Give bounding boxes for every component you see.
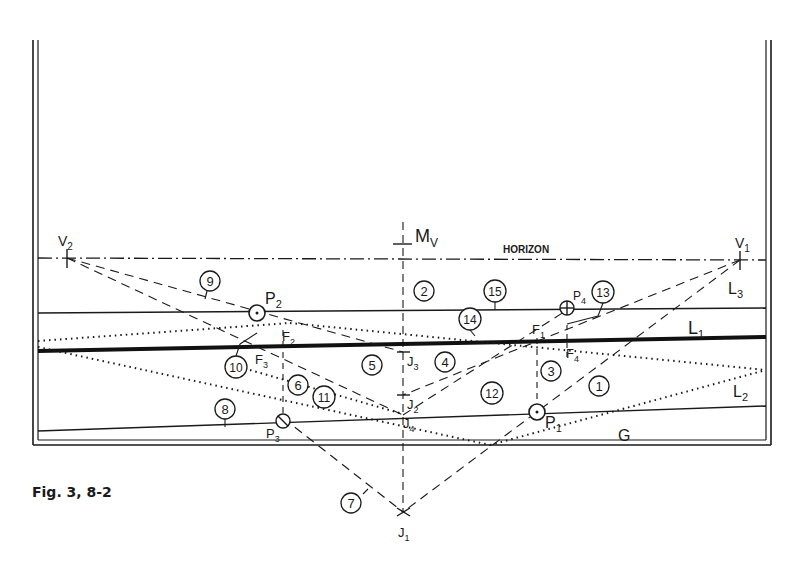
- label-p2: P2: [265, 290, 282, 310]
- label-p3: P3: [266, 426, 280, 444]
- circled-number-3: 3: [547, 364, 554, 379]
- circled-number-5: 5: [368, 358, 375, 373]
- label-j3: J3: [407, 354, 419, 372]
- line-l1: [38, 337, 766, 351]
- label-l2: L2: [733, 383, 748, 403]
- label-v1: V1: [735, 235, 750, 254]
- circled-number-11: 11: [318, 391, 331, 405]
- circled-number-6: 6: [294, 378, 301, 393]
- p3-marker: [276, 414, 290, 428]
- circled-number-2: 2: [420, 284, 427, 299]
- p2-marker: [249, 305, 265, 321]
- label-f3: F3: [255, 352, 268, 370]
- p1-marker: [529, 404, 545, 420]
- label-f4: F4: [566, 346, 579, 364]
- line-l3: [38, 308, 766, 313]
- circled-number-13: 13: [596, 286, 610, 300]
- circled-number-4: 4: [441, 355, 448, 370]
- p4-marker: [560, 301, 574, 315]
- label-v2: V2: [58, 233, 73, 252]
- label-l1: L1: [688, 318, 704, 340]
- circled-number-15: 15: [488, 285, 502, 299]
- label-p1: P1: [545, 414, 562, 434]
- perspective-diagram: V2 V1 MV HORIZON L3 L1 L2 G P2 P4 P3 P1 …: [0, 0, 802, 574]
- circled-number-14: 14: [463, 313, 477, 327]
- circled-number-12: 12: [485, 387, 499, 401]
- circled-number-8: 8: [221, 402, 228, 417]
- circled-number-1: 1: [595, 379, 602, 394]
- circled-number-10: 10: [229, 361, 243, 375]
- horizon-line: [38, 258, 766, 260]
- figure-caption: Fig. 3, 8-2: [32, 484, 112, 500]
- label-l3: L3: [728, 280, 743, 300]
- label-g: G: [618, 427, 630, 444]
- circled-number-9: 9: [206, 274, 213, 289]
- line-l2: [38, 406, 766, 431]
- circled-number-7: 7: [347, 496, 354, 511]
- frame: [33, 40, 771, 445]
- label-j2: J2: [407, 397, 419, 415]
- label-mv: MV: [415, 226, 438, 250]
- label-p4: P4: [573, 289, 586, 306]
- horizon-label: HORIZON: [503, 244, 549, 255]
- label-j1: J1: [398, 525, 410, 543]
